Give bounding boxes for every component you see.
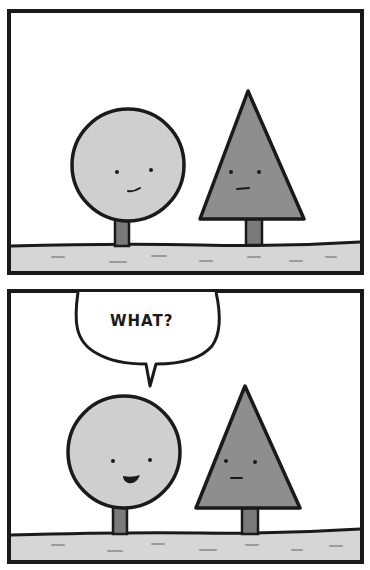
ground — [11, 242, 360, 271]
comic-panel-2: WHAT? — [0, 280, 370, 570]
comic-panel-1 — [0, 0, 370, 280]
speech-text: WHAT? — [110, 312, 173, 330]
panel-1-illustration — [0, 0, 370, 280]
panel-2-illustration — [0, 280, 370, 570]
ground — [11, 529, 360, 560]
